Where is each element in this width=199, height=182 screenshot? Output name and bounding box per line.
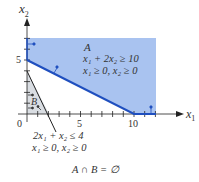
region-b-label: B (31, 96, 37, 107)
region-a (27, 38, 156, 114)
x-axis-label: x1 (186, 107, 195, 123)
tick-label-x10: 10 (128, 118, 138, 129)
region-b-constraint-2: x₁ ≥ 0, x₂ ≥ 0 (32, 142, 86, 153)
feasible-region-diagram (0, 0, 199, 182)
region-a-label: A (84, 41, 91, 53)
y-axis-label: x2 (19, 1, 29, 19)
tick-label-x5: 5 (77, 118, 82, 129)
y-axis-arrow-icon (24, 18, 30, 26)
region-b-constraint-1: 2x₁ + x₂ ≤ 4 (33, 130, 83, 141)
caption: A ∩ B = ∅ (72, 163, 119, 175)
region-a-constraint-2: x₁ ≥ 0, x₂ ≥ 0 (83, 65, 137, 76)
x-axis-arrow-icon (176, 111, 184, 117)
tick-label-y5: 5 (16, 54, 21, 65)
tick-label-origin: 0 (17, 118, 22, 129)
region-a-constraint-1: x₁ + 2x₂ ≥ 10 (83, 53, 139, 64)
